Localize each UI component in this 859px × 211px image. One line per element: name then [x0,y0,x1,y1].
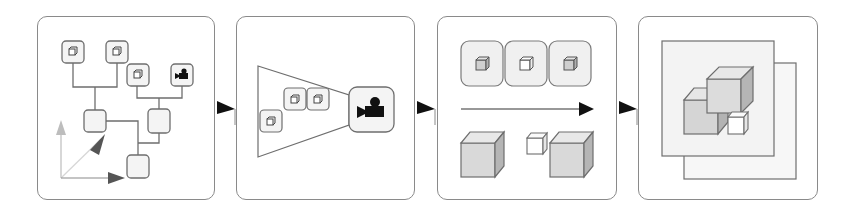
large-cube-left [461,132,504,177]
cube-node-2 [106,41,128,63]
cube-node-3 [127,64,149,86]
y-axis-arrow-icon [56,120,66,135]
culled-object-3 [260,110,282,132]
scene-graph-diagram [38,17,216,201]
frustum-diagram [237,17,416,201]
pipeline-arrow-1-icon [214,95,238,125]
cube-tile-1 [461,41,503,86]
cube-node-1 [62,41,84,63]
culled-object-2 [307,88,329,110]
cube-tile-3 [549,41,591,86]
pipeline-arrow-3-icon [616,95,640,125]
stage-rendered-layers-panel [638,16,818,200]
stage-view-frustum-panel [236,16,415,200]
group-node-b [148,109,170,133]
large-cube-right [550,132,593,177]
camera-node [349,87,394,132]
stage-object-processing-panel [437,16,617,200]
layers-diagram [639,17,819,201]
culled-object-1 [284,88,306,110]
stage-scene-graph-panel [37,16,215,200]
cube-tile-2 [505,41,547,86]
pipeline-arrow-2-icon [414,95,438,125]
root-node [127,155,149,178]
processing-diagram [438,17,618,201]
process-arrow-icon [579,102,594,116]
x-axis-arrow-icon [108,172,125,184]
small-cube [527,133,547,154]
camera-node [171,64,193,86]
group-node-a [84,110,106,132]
z-axis-arrow-icon [90,134,105,155]
